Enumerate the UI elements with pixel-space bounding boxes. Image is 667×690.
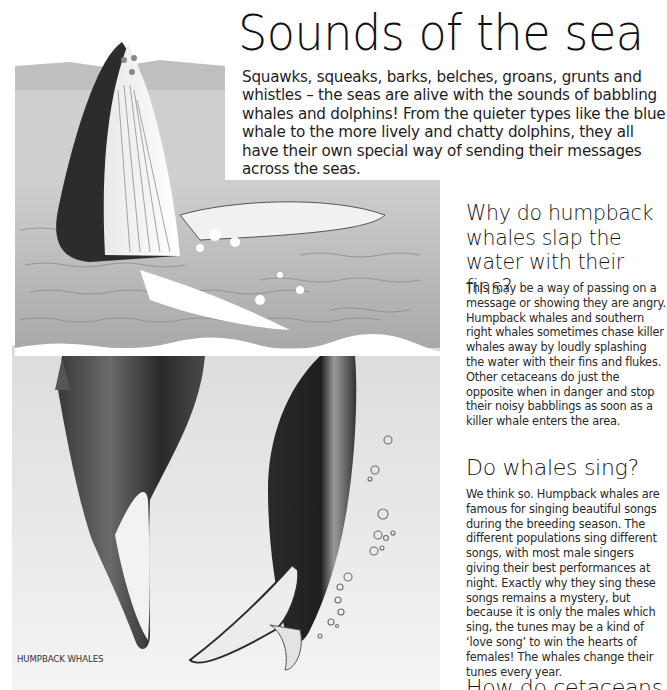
section-heading-how-do-cetaceans: How do cetaceans xyxy=(466,676,666,690)
section-body-humpback-slap: This may be a way of passing on a messag… xyxy=(466,281,667,429)
page-title: Sounds of the sea xyxy=(238,4,644,64)
section-heading-whales-sing: Do whales sing? xyxy=(466,456,666,481)
section-body-whales-sing: We think so. Humpback whales are famous … xyxy=(466,487,667,679)
intro-paragraph: Squawks, squeaks, barks, belches, groans… xyxy=(242,68,667,178)
illustration-caption: HUMPBACK WHALES xyxy=(17,654,103,664)
